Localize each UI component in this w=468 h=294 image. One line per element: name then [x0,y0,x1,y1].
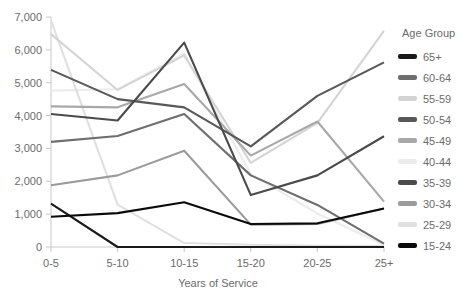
legend-item-50-54[interactable]: 50-54 [398,109,468,130]
legend-item-30-34[interactable]: 30-34 [398,193,468,214]
series-line-35-39 [51,43,384,195]
series-line-45-49 [51,84,384,202]
x-tick-group: 0-55-1010-1515-2020-2525+ [43,247,393,269]
legend-item-55-59[interactable]: 55-59 [398,88,468,109]
series-line-40-44 [51,54,384,245]
legend-item-label: 30-34 [423,198,451,210]
legend-item-label: 50-54 [423,114,451,126]
x-tick-label: 15-20 [237,257,265,269]
plot-svg: 01,0002,0003,0004,0005,0006,0007,000 0-5… [0,0,396,294]
legend-item-40-44[interactable]: 40-44 [398,151,468,172]
y-tick-label: 3,000 [14,142,42,154]
plot-area: 01,0002,0003,0004,0005,0006,0007,000 0-5… [0,0,396,294]
legend-item-label: 35-39 [423,177,451,189]
x-tick-label: 25+ [375,257,394,269]
line-chart: 01,0002,0003,0004,0005,0006,0007,000 0-5… [0,0,468,294]
legend-swatch-icon [398,222,417,227]
y-tick-label: 1,000 [14,208,42,220]
legend-item-25-29[interactable]: 25-29 [398,214,468,235]
y-tick-label: 4,000 [14,110,42,122]
legend-swatch-icon [398,75,417,80]
legend-item-15-24[interactable]: 15-24 [398,235,468,256]
x-tick-label: 5-10 [107,257,129,269]
legend-item-45-49[interactable]: 45-49 [398,130,468,151]
y-tick-label: 0 [36,241,42,253]
legend-swatch-icon [398,201,417,206]
legend-swatch-icon [398,96,417,101]
y-tick-group: 01,0002,0003,0004,0005,0006,0007,000 [14,11,51,253]
y-tick-label: 7,000 [14,11,42,23]
x-tick-label: 0-5 [43,257,59,269]
y-tick-label: 6,000 [14,44,42,56]
x-tick-label: 10-15 [170,257,198,269]
legend-item-label: 55-59 [423,93,451,105]
y-axis: 01,0002,0003,0004,0005,0006,0007,000 [14,11,51,253]
legend-item-label: 25-29 [423,219,451,231]
legend-item-35-39[interactable]: 35-39 [398,172,468,193]
legend-swatch-icon [398,243,417,248]
y-tick-label: 5,000 [14,77,42,89]
x-axis-title: Years of Service [178,277,258,289]
legend-swatch-icon [398,138,417,143]
x-tick-label: 20-25 [303,257,331,269]
legend-item-65-[interactable]: 65+ [398,46,468,67]
legend-item-label: 60-64 [423,72,451,84]
legend-item-label: 45-49 [423,135,451,147]
y-tick-label: 2,000 [14,175,42,187]
legend-items: 65+60-6455-5950-5445-4940-4435-3930-3425… [398,46,468,256]
legend-swatch-icon [398,159,417,164]
x-axis: 0-55-1010-1515-2020-2525+ [43,247,393,269]
legend: Age Group 65+60-6455-5950-5445-4940-4435… [398,27,468,256]
legend-item-60-64[interactable]: 60-64 [398,67,468,88]
legend-title: Age Group [402,27,468,39]
legend-swatch-icon [398,180,417,185]
legend-swatch-icon [398,54,417,59]
legend-item-label: 40-44 [423,156,451,168]
series-line-65- [51,204,384,247]
legend-item-label: 65+ [423,51,442,63]
legend-swatch-icon [398,117,417,122]
series-group [51,20,384,247]
legend-item-label: 15-24 [423,240,451,252]
